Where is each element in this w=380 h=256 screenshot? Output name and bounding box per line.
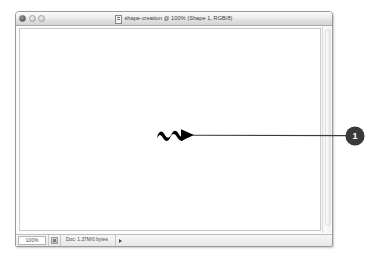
title-group: shape-creation @ 100% (Shape 1, RGB/8) (16, 12, 332, 26)
zoom-level-input[interactable]: 100% (18, 236, 46, 245)
minimize-button[interactable] (29, 15, 36, 22)
window-title: shape-creation @ 100% (Shape 1, RGB/8) (124, 16, 232, 22)
zoom-level-value: 100% (26, 238, 39, 243)
close-button[interactable] (19, 15, 26, 22)
vertical-scrollbar[interactable] (322, 27, 331, 233)
window-titlebar[interactable]: shape-creation @ 100% (Shape 1, RGB/8) (16, 12, 332, 26)
photoshop-document-window: shape-creation @ 100% (Shape 1, RGB/8) 1… (15, 11, 333, 247)
window-controls (19, 15, 45, 22)
document-proxy-icon (115, 15, 122, 23)
chevron-right-icon (119, 239, 122, 243)
status-bar: 100% Doc: 1.37M/0 bytes (16, 234, 332, 246)
vertical-scrollbar-thumb[interactable] (325, 29, 331, 227)
callout-badge-number: 1 (352, 132, 357, 141)
document-canvas[interactable] (19, 28, 321, 231)
screenshot-stage: shape-creation @ 100% (Shape 1, RGB/8) 1… (0, 0, 380, 256)
zoom-button[interactable] (38, 15, 45, 22)
document-info-text: Doc: 1.37M/0 bytes (61, 235, 113, 246)
thumbnail-icon (51, 237, 58, 244)
status-menu-arrow-button[interactable] (115, 235, 126, 246)
status-bar-filler (126, 235, 332, 246)
canvas-area[interactable] (16, 26, 332, 234)
thumbnail-toggle-button[interactable] (48, 235, 61, 246)
callout-badge-1: 1 (346, 127, 364, 145)
